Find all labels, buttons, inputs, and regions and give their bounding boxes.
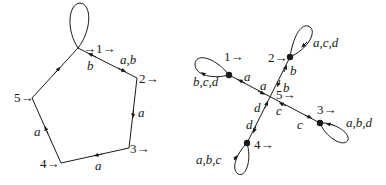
state-label-left-5: 5→ — [14, 91, 34, 104]
loop-label-right-1: b,c,d — [193, 75, 218, 88]
state-label-left-4: 4→ — [40, 157, 60, 170]
loop-label-right-2: a,c,d — [313, 36, 338, 49]
state-node-right-2 — [287, 54, 293, 60]
loop-label-right-3: a,b,d — [346, 116, 372, 129]
edge-label-right-5-4: d — [246, 118, 253, 131]
loop-label-right-4: a,b,c — [196, 153, 221, 166]
edge-label-right-3-5: c — [276, 104, 282, 117]
edge-label-right-5-3: c — [297, 118, 303, 131]
state-node-right-3 — [317, 120, 323, 126]
edge-label-left-2-3: a — [138, 106, 145, 119]
edge-right-3-loop — [320, 123, 348, 143]
edge-right-4-loop — [235, 143, 249, 175]
edge-label-left-3-4: a — [95, 159, 102, 172]
edge-label-right-5-1: a — [244, 70, 251, 83]
state-node-right-1 — [226, 72, 232, 78]
state-label-right-4: 4→ — [254, 138, 274, 151]
state-label-right-2: 2→ — [268, 51, 288, 64]
edge-label-right-5-2: b — [290, 64, 297, 77]
edge-label-left-2-1: b — [87, 59, 94, 72]
state-label-left-2: 2→ — [139, 72, 159, 85]
diagram-canvas: →1→ 2→ 3→ 4→ 5→ a,b b a a a 1→ 2→ 3→ 4→ … — [0, 0, 386, 185]
state-label-left-3: 3→ — [130, 142, 150, 155]
edge-label-left-4-5: a — [34, 125, 41, 138]
state-label-right-1: 1→ — [224, 50, 244, 63]
edge-label-right-2-5: b — [283, 81, 290, 94]
state-node-right-4 — [244, 140, 250, 146]
state-label-right-3: 3→ — [317, 103, 337, 116]
state-label-left-1: →1→ — [83, 42, 116, 55]
edge-label-right-1-5: a — [260, 79, 267, 92]
edge-label-left-1-2: a,b — [120, 53, 136, 66]
left-graph — [32, 3, 137, 163]
edge-label-right-4-5: d — [254, 101, 261, 114]
edge-right-2-loop — [290, 26, 312, 57]
